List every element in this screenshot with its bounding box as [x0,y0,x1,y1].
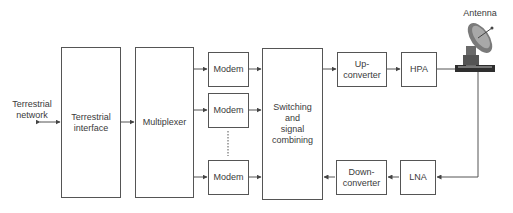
terrestrial-interface-block: Terrestrial interface [61,47,121,198]
terrestrial-network-label: Terrestrial network [3,99,61,121]
switching-combining-block: Switching and signal combining [262,48,323,200]
antenna-label: Antenna [450,8,510,19]
modem-block-1: Modem [208,52,249,87]
multiplexer-block: Multiplexer [135,47,194,198]
satellite-dish-icon [455,19,497,72]
modem-block-2: Modem [208,93,249,128]
modem-block-n: Modem [208,160,249,195]
down-converter-block: Down- converter [336,160,387,195]
lna-block: LNA [400,160,436,195]
up-converter-block: Up- converter [337,52,387,87]
hpa-block: HPA [401,52,437,87]
